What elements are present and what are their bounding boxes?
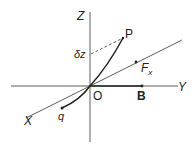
point-b-label: B [137,89,146,103]
point-p-dot [122,37,124,39]
origin-label: O [93,89,102,103]
force-marker [135,61,138,64]
force-label: Fx [141,61,153,77]
point-p-label: P [125,27,133,41]
point-q-label: q [58,110,65,122]
y-axis-label: Y [178,80,187,94]
coordinate-diagram: Z Y X O P B q δz Fx [0,0,195,147]
delta-z-dashed-line [91,39,121,54]
x-axis [26,40,182,118]
x-axis-label: X [23,114,33,128]
point-b-dot [141,85,144,88]
delta-z-label: δz [74,48,86,60]
z-axis-label: Z [76,9,85,23]
